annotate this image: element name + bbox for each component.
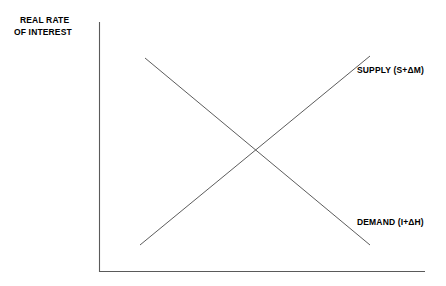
y-axis-title-line-1: REAL RATE <box>14 15 72 27</box>
y-axis-title-line-2: OF INTEREST <box>14 27 72 39</box>
chart-plot-area <box>0 0 446 286</box>
supply-curve-label: SUPPLY (S+ΔM) <box>357 65 424 77</box>
y-axis-title: REAL RATE OF INTEREST <box>14 15 72 38</box>
loanable-funds-chart: REAL RATE OF INTEREST SUPPLY (S+ΔM) DEMA… <box>0 0 446 286</box>
demand-curve-label: DEMAND (I+ΔH) <box>357 217 424 229</box>
demand-curve <box>145 58 370 245</box>
